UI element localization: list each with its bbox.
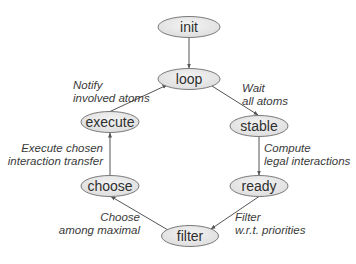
edge-label-line: Compute bbox=[264, 142, 311, 154]
edge-label: Chooseamong maximal bbox=[59, 211, 141, 236]
edge-label-line: w.r.t. priorities bbox=[235, 224, 306, 236]
edge-label: Execute choseninteraction transfer bbox=[8, 142, 104, 167]
edge-label-line: Choose bbox=[100, 211, 140, 223]
edge-label-line: interaction transfer bbox=[8, 155, 104, 167]
edge-label: Notifyinvolved atoms bbox=[73, 79, 150, 104]
node-label: execute bbox=[85, 114, 134, 130]
edge-label-line: legal interactions bbox=[264, 155, 351, 167]
edge-label-line: Filter bbox=[235, 211, 262, 223]
node-execute: execute bbox=[81, 112, 139, 133]
edge-choose-to-execute: Execute choseninteraction transfer bbox=[8, 133, 110, 176]
node-loop: loop bbox=[158, 69, 220, 90]
node-label: ready bbox=[241, 178, 276, 194]
edge-label-line: among maximal bbox=[59, 224, 141, 236]
edge-label: Filterw.r.t. priorities bbox=[235, 211, 306, 236]
edge-label-line: all atoms bbox=[242, 95, 288, 107]
edges-layer: Waitall atomsComputelegal interactionsFi… bbox=[8, 38, 351, 237]
node-init: init bbox=[158, 17, 220, 38]
node-choose: choose bbox=[81, 176, 139, 197]
edge-label: Computelegal interactions bbox=[264, 142, 351, 167]
edge-label-line: Wait bbox=[242, 82, 266, 94]
edge-label: Waitall atoms bbox=[242, 82, 288, 107]
edge-label-line: involved atoms bbox=[73, 92, 150, 104]
node-stable: stable bbox=[230, 116, 288, 137]
edge-filter-to-choose: Chooseamong maximal bbox=[59, 197, 168, 237]
node-label: stable bbox=[240, 118, 278, 134]
node-label: init bbox=[180, 19, 198, 35]
node-ready: ready bbox=[230, 176, 288, 197]
node-label: loop bbox=[176, 71, 203, 87]
node-filter: filter bbox=[162, 226, 219, 247]
edge-stable-to-ready: Computelegal interactions bbox=[259, 137, 351, 175]
edge-label-line: Notify bbox=[73, 79, 104, 91]
edge-loop-to-stable: Waitall atoms bbox=[212, 82, 288, 115]
node-label: choose bbox=[87, 178, 132, 194]
edge-execute-to-loop: Notifyinvolved atoms bbox=[73, 79, 167, 112]
state-diagram: Waitall atomsComputelegal interactionsFi… bbox=[0, 0, 356, 264]
edge-label-line: Execute chosen bbox=[21, 142, 103, 154]
edge-ready-to-filter: Filterw.r.t. priorities bbox=[211, 197, 306, 237]
node-label: filter bbox=[177, 228, 204, 244]
